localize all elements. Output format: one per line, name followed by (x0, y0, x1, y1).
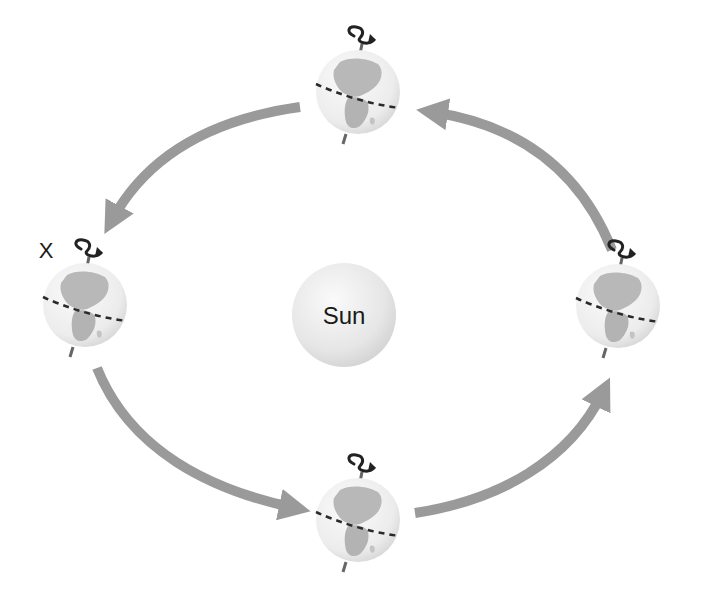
orbit-arrow-top-left (112, 107, 300, 220)
orbit-arrow-bottom-left (97, 368, 295, 508)
position-marker-label: X (39, 238, 54, 263)
sun: Sun (292, 263, 396, 367)
orbit-arrow-top-right (432, 112, 612, 250)
earth-right (576, 241, 660, 358)
earth-bottom (316, 455, 400, 572)
orbit-arrow-bottom-right (415, 392, 603, 513)
orbit-diagram: Sun X (0, 0, 702, 604)
sun-label: Sun (323, 302, 366, 329)
earth-top (316, 27, 400, 144)
earth-left (43, 240, 127, 357)
